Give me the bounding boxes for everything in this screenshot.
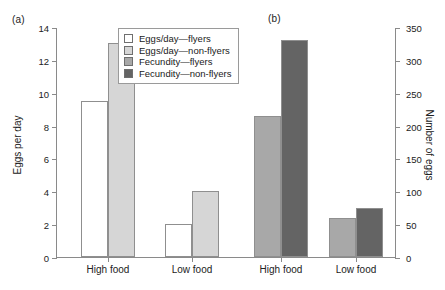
tick-label-left-2: 2 — [44, 220, 49, 231]
tick-label-left-0: 0 — [44, 253, 49, 264]
x-tick — [192, 257, 193, 262]
legend-swatch-icon — [124, 46, 133, 55]
tick-right-150 — [395, 159, 400, 160]
bar — [329, 218, 356, 257]
bar — [81, 101, 108, 257]
bar — [254, 116, 281, 257]
y-axis-title-right: Number of eggs — [424, 109, 435, 180]
tick-label-left-6: 6 — [44, 154, 49, 165]
bar — [356, 208, 383, 257]
legend-item[interactable]: Eggs/day—non-flyers — [124, 45, 231, 57]
tick-left-0 — [52, 258, 57, 259]
tick-left-14 — [52, 28, 57, 29]
x-tick — [281, 257, 282, 262]
tick-right-50 — [395, 225, 400, 226]
x-tick-label: Low food — [172, 264, 213, 275]
panel-label-b: (b) — [268, 13, 281, 24]
figure: (a) (b) Eggs per day Number of eggs 0246… — [0, 0, 445, 290]
bar — [165, 224, 192, 257]
tick-right-200 — [395, 127, 400, 128]
tick-left-10 — [52, 94, 57, 95]
tick-right-300 — [395, 61, 400, 62]
bar — [281, 40, 308, 257]
tick-label-right-150: 150 — [406, 154, 422, 165]
tick-right-350 — [395, 28, 400, 29]
tick-label-left-12: 12 — [38, 55, 49, 66]
tick-label-right-50: 50 — [406, 220, 417, 231]
panel-label-a: (a) — [12, 14, 25, 25]
tick-label-left-4: 4 — [44, 187, 49, 198]
tick-label-right-300: 300 — [406, 55, 422, 66]
tick-right-250 — [395, 94, 400, 95]
tick-left-6 — [52, 159, 57, 160]
tick-label-left-8: 8 — [44, 121, 49, 132]
legend-swatch-icon — [124, 69, 133, 78]
x-tick — [108, 257, 109, 262]
legend-swatch-icon — [124, 57, 133, 66]
legend-item[interactable]: Eggs/day—flyers — [124, 33, 231, 45]
legend-item[interactable]: Fecundity—non-flyers — [124, 68, 231, 80]
tick-left-8 — [52, 127, 57, 128]
legend-item-label: Eggs/day—flyers — [139, 33, 211, 44]
tick-label-right-200: 200 — [406, 121, 422, 132]
bar — [192, 191, 219, 257]
tick-label-right-100: 100 — [406, 187, 422, 198]
tick-label-left-10: 10 — [38, 88, 49, 99]
x-tick-label: Low food — [336, 264, 377, 275]
tick-right-0 — [395, 258, 400, 259]
tick-label-right-350: 350 — [406, 23, 422, 34]
tick-left-4 — [52, 192, 57, 193]
tick-left-12 — [52, 61, 57, 62]
tick-label-left-14: 14 — [38, 23, 49, 34]
tick-left-2 — [52, 225, 57, 226]
legend: Eggs/day—flyersEggs/day—non-flyersFecund… — [118, 28, 239, 84]
x-axis — [56, 257, 396, 258]
x-tick — [356, 257, 357, 262]
tick-label-right-250: 250 — [406, 88, 422, 99]
legend-item-label: Eggs/day—non-flyers — [139, 45, 230, 56]
legend-item-label: Fecundity—flyers — [139, 56, 212, 67]
legend-item[interactable]: Fecundity—flyers — [124, 56, 231, 68]
legend-item-label: Fecundity—non-flyers — [139, 68, 231, 79]
x-tick-label: High food — [87, 264, 130, 275]
tick-right-100 — [395, 192, 400, 193]
x-tick-label: High food — [260, 264, 303, 275]
y-axis-left — [56, 28, 57, 258]
y-axis-title-left: Eggs per day — [12, 116, 23, 175]
y-axis-right — [395, 28, 396, 258]
tick-label-right-0: 0 — [406, 253, 411, 264]
legend-swatch-icon — [124, 34, 133, 43]
